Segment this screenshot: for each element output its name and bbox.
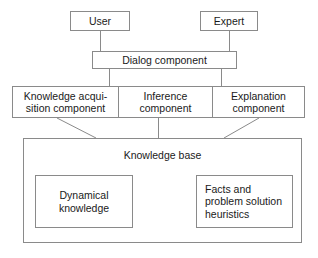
- node-user[interactable]: User: [70, 11, 130, 31]
- node-knowledge-acquisition-component[interactable]: Knowledge acqui- sition component: [13, 87, 118, 117]
- expert-system-diagram: User Expert Dialog component Knowledge a…: [0, 0, 318, 258]
- node-explanation-component[interactable]: Explanation component: [213, 87, 304, 117]
- node-explanation-component-label: Explanation component: [229, 90, 288, 115]
- node-dynamical-knowledge[interactable]: Dynamical knowledge: [35, 175, 133, 228]
- node-dialog-component-label: Dialog component: [120, 54, 209, 67]
- connector-explanation-to-knowledge-base: [224, 118, 259, 138]
- node-user-label: User: [87, 15, 113, 28]
- node-dynamical-knowledge-label: Dynamical knowledge: [57, 189, 111, 214]
- node-facts-and-heuristics-label: Facts and problem solution heuristics: [197, 183, 284, 221]
- component-row: Knowledge acqui- sition component Infere…: [12, 86, 305, 118]
- connector-acquisition-to-knowledge-base: [57, 118, 96, 138]
- node-inference-component-label: Inference component: [138, 90, 194, 115]
- node-expert-label: Expert: [212, 15, 246, 28]
- node-dialog-component[interactable]: Dialog component: [92, 51, 237, 69]
- node-knowledge-base-label: Knowledge base: [24, 149, 301, 162]
- node-facts-and-heuristics[interactable]: Facts and problem solution heuristics: [196, 175, 293, 228]
- node-expert[interactable]: Expert: [200, 11, 258, 31]
- node-inference-component[interactable]: Inference component: [119, 87, 212, 117]
- node-knowledge-acquisition-component-label: Knowledge acqui- sition component: [22, 90, 109, 115]
